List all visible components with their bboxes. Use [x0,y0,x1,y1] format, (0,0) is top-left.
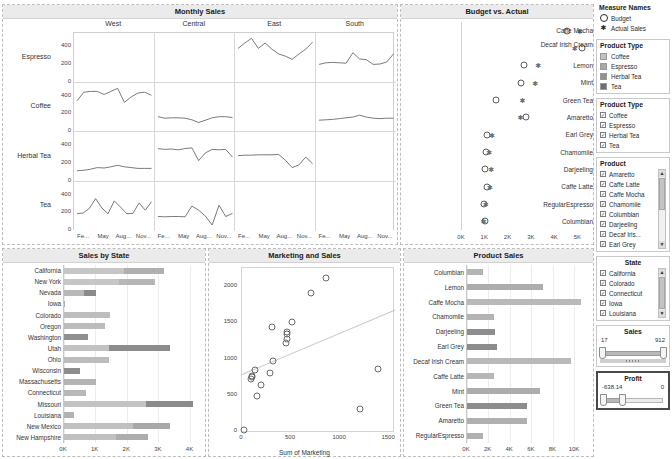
checkbox-icon[interactable]: ✓ [600,201,606,207]
checkbox-icon[interactable]: ✓ [600,211,606,217]
product-sales-bar[interactable] [467,388,587,394]
profit-slider-handle-right[interactable] [619,394,626,406]
budget-marker[interactable] [520,62,527,69]
legend-item[interactable]: Tea [600,81,666,91]
product-filter-item[interactable]: ✓Caffe Mocha [600,189,656,199]
sales-slider-handle-right[interactable] [660,347,667,359]
actual-sales-marker[interactable]: ✱ [481,218,487,225]
product-type-filter-item[interactable]: ✓Coffee [600,110,666,120]
scatter-point[interactable] [323,275,330,282]
sales-by-state-bar[interactable] [64,357,199,363]
profit-slider-track[interactable] [601,393,665,406]
sales-by-state-bar[interactable] [64,434,199,440]
sales-by-state-bar[interactable] [64,279,199,285]
legend-item[interactable]: Coffee [600,51,666,61]
scatter-point[interactable] [289,318,296,325]
actual-sales-marker[interactable]: ✱ [517,114,523,121]
checkbox-icon[interactable]: ✓ [600,112,606,118]
checkbox-icon[interactable]: ✓ [600,300,606,306]
product-type-filter-item[interactable]: ✓Espresso [600,120,666,130]
product-filter-item[interactable]: ✓Decaf Iris... [600,229,656,239]
legend-item-actual-sales[interactable]: ✱ Actual Sales [599,23,667,33]
slider-drag-handle[interactable] [600,359,666,363]
state-filter[interactable]: State ✓California✓Colorado✓Connecticut✓I… [596,256,670,321]
sales-by-state-bar[interactable] [64,379,199,385]
product-sales-bar[interactable] [467,344,587,350]
product-sales-bar[interactable] [467,314,587,320]
scatter-point[interactable] [266,370,273,377]
checkbox-icon[interactable]: ✓ [600,191,606,197]
scatter-point[interactable] [356,405,363,412]
actual-sales-marker[interactable]: ✱ [487,183,493,190]
sales-by-state-bar[interactable] [64,268,199,274]
sales-by-state-bar[interactable] [64,301,199,307]
actual-sales-marker[interactable]: ✱ [520,97,526,104]
sales-by-state-bar[interactable] [64,345,199,351]
scrollbar[interactable]: ▲▼ [658,169,666,249]
state-filter-item[interactable]: ✓Louisiana [600,308,656,318]
checkbox-icon[interactable]: ✓ [600,280,606,286]
sales-by-state-bar[interactable] [64,312,199,318]
product-filter[interactable]: Product ✓Amaretto✓Caffe Latte✓Caffe Moch… [596,157,670,252]
scroll-down-arrow-icon[interactable]: ▼ [659,241,665,248]
actual-sales-marker[interactable]: ✱ [488,166,494,173]
checkbox-icon[interactable]: ✓ [600,122,606,128]
product-sales-bar[interactable] [467,358,587,364]
state-filter-item[interactable]: ✓Iowa [600,298,656,308]
actual-sales-marker[interactable]: ✱ [486,149,492,156]
checkbox-icon[interactable]: ✓ [600,181,606,187]
budget-marker[interactable] [492,97,499,104]
checkbox-icon[interactable]: ✓ [600,132,606,138]
legend-item[interactable]: Herbal Tea [600,71,666,81]
state-filter-item[interactable]: ✓Colorado [600,278,656,288]
scatter-point[interactable] [240,426,247,433]
scroll-up-arrow-icon[interactable]: ▲ [659,269,665,276]
sales-by-state-bar[interactable] [64,390,199,396]
scroll-thumb[interactable] [659,277,665,309]
product-filter-item[interactable]: ✓Chamomile [600,199,656,209]
product-filter-item[interactable]: ✓Darjeeling [600,219,656,229]
product-filter-item[interactable]: ✓Earl Grey [600,239,656,249]
actual-sales-marker[interactable]: ✱ [489,131,495,138]
budget-marker[interactable] [481,166,488,173]
product-sales-bar[interactable] [467,299,587,305]
product-type-filter-item[interactable]: ✓Tea [600,140,666,150]
sales-by-state-bar[interactable] [64,368,199,374]
sales-slider-handle-left[interactable] [599,347,606,359]
legend-item-budget[interactable]: Budget [599,13,667,23]
sales-by-state-bar[interactable] [64,290,199,296]
checkbox-icon[interactable]: ✓ [600,241,606,247]
sales-by-state-bar[interactable] [64,323,199,329]
checkbox-icon[interactable]: ✓ [600,221,606,227]
scatter-point[interactable] [251,367,258,374]
product-filter-item[interactable]: ✓Caffe Latte [600,179,656,189]
checkbox-icon[interactable]: ✓ [600,171,606,177]
product-type-filter[interactable]: Product Type ✓Coffee✓Espresso✓Herbal Tea… [596,98,670,153]
legend-item[interactable]: Espresso [600,61,666,71]
checkbox-icon[interactable]: ✓ [600,231,606,237]
actual-sales-marker[interactable]: ✱ [483,201,489,208]
profit-slider-handle-left[interactable] [600,394,607,406]
scroll-down-arrow-icon[interactable]: ▼ [659,310,665,317]
checkbox-icon[interactable]: ✓ [600,142,606,148]
product-sales-bar[interactable] [467,284,587,290]
sales-by-state-bar[interactable] [64,423,199,429]
product-sales-bar[interactable] [467,418,587,424]
sales-by-state-bar[interactable] [64,334,199,340]
state-filter-item[interactable]: ✓Connecticut [600,288,656,298]
scatter-point[interactable] [268,324,275,331]
profit-range-slider[interactable]: Profit -638.14 0 [596,371,670,410]
product-type-filter-item[interactable]: ✓Herbal Tea [600,130,666,140]
checkbox-icon[interactable]: ✓ [600,290,606,296]
scatter-point[interactable] [284,329,291,336]
sales-range-slider[interactable]: Sales 17 912 [596,325,670,367]
scroll-up-arrow-icon[interactable]: ▲ [659,170,665,177]
product-sales-bar[interactable] [467,433,587,439]
scatter-point[interactable] [269,358,276,365]
product-sales-bar[interactable] [467,373,587,379]
scrollbar[interactable]: ▲▼ [658,268,666,318]
sales-by-state-bar[interactable] [64,412,199,418]
product-sales-bar[interactable] [467,269,587,275]
sales-slider-track[interactable] [600,346,666,359]
checkbox-icon[interactable]: ✓ [600,310,606,316]
